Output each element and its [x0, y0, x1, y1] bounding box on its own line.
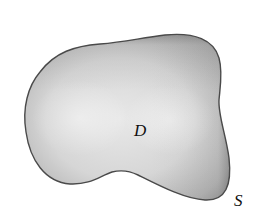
region-blob [0, 0, 267, 216]
region-diagram: D S [0, 0, 267, 216]
region-label-d: D [134, 122, 146, 139]
surface-label-s: S [234, 192, 243, 209]
